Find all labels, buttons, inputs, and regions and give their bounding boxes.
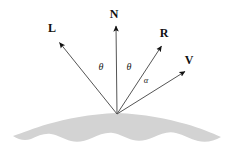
surface-shape — [13, 113, 221, 142]
phong-reflection-diagram: L N R V θ θ α — [0, 0, 234, 163]
diagram-canvas: L N R V θ θ α — [0, 0, 234, 163]
angle-label-theta-right: θ — [127, 61, 132, 72]
vector-label-N: N — [110, 7, 119, 21]
angle-label-theta-left: θ — [99, 61, 104, 72]
vector-L-line — [60, 43, 118, 115]
vector-V-line — [117, 72, 185, 115]
angle-label-alpha: α — [144, 75, 149, 85]
vector-R-line — [117, 46, 162, 114]
vector-label-V: V — [185, 53, 194, 67]
vector-label-R: R — [160, 26, 169, 40]
vector-N-line — [116, 26, 117, 114]
vector-label-L: L — [48, 21, 56, 35]
